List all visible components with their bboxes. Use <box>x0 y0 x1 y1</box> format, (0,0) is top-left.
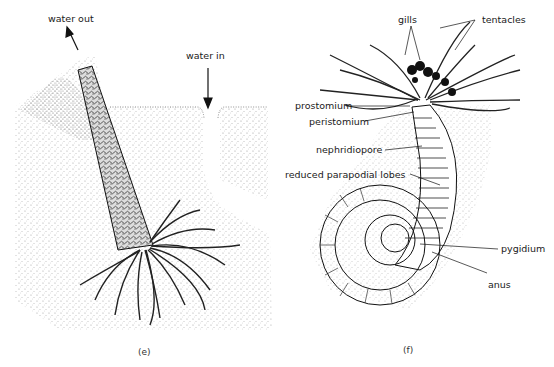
label-pygidium: pygidium <box>501 244 545 254</box>
label-reduced-parapodial-lobes: reduced parapodial lobes <box>285 170 406 180</box>
label-water-out: water out <box>48 14 94 24</box>
label-gills: gills <box>398 15 417 25</box>
caption-e: (e) <box>138 348 151 357</box>
panel-f-drawing <box>310 20 520 310</box>
panel-e-drawing <box>15 27 272 330</box>
label-water-in: water in <box>186 51 225 61</box>
label-tentacles: tentacles <box>482 15 526 25</box>
label-nephridiopore: nephridiopore <box>316 145 382 155</box>
illustration <box>0 0 554 367</box>
caption-f: (f) <box>403 346 413 355</box>
label-prostomium: prostomium <box>295 101 352 111</box>
label-anus: anus <box>488 280 511 290</box>
label-peristomium: peristomium <box>309 117 369 127</box>
